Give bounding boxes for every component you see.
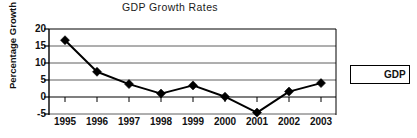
x-axis-ticks — [65, 97, 321, 102]
data-series-gdp — [61, 36, 326, 117]
x-tick-label-2001: 2001 — [240, 116, 274, 127]
axis-frame — [44, 29, 336, 115]
legend-entry-gdp: GDP — [384, 69, 406, 81]
x-tick-label-2002: 2002 — [272, 116, 306, 127]
x-axis-tick-labels: 1995 1996 1997 1998 1999 2000 2001 2002 … — [0, 116, 417, 136]
gdp-growth-rates-chart: GDP Growth Rates Percentage Growth 20 15… — [0, 0, 417, 138]
chart-legend: GDP — [350, 65, 410, 84]
x-tick-label-1996: 1996 — [80, 116, 114, 127]
x-tick-label-1998: 1998 — [144, 116, 178, 127]
data-point-2000 — [221, 92, 230, 101]
data-point-1997 — [125, 80, 134, 89]
data-point-1999 — [189, 81, 198, 90]
x-tick-label-1995: 1995 — [48, 116, 82, 127]
x-tick-label-2003: 2003 — [304, 116, 338, 127]
x-tick-label-1999: 1999 — [176, 116, 210, 127]
x-tick-label-2000: 2000 — [208, 116, 242, 127]
x-tick-label-1997: 1997 — [112, 116, 146, 127]
